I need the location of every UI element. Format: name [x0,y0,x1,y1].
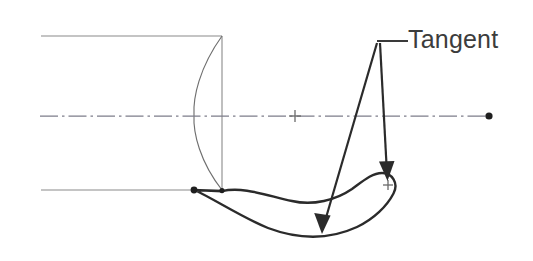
band-corner-dot [219,188,224,193]
technical-drawing-svg: Tangent [0,0,533,261]
technical-drawing-canvas: Tangent [0,0,533,261]
tangent-point-dot [191,187,198,194]
tangent-label: Tangent [408,25,498,53]
axis-end-dot [485,112,492,119]
